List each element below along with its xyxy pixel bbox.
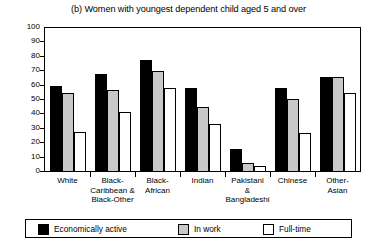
bar-group (185, 28, 221, 172)
bar (197, 107, 209, 172)
bar (209, 124, 221, 172)
bar (107, 90, 119, 172)
bar-group (275, 28, 311, 172)
x-category-label-line: & (216, 186, 279, 196)
bar (164, 88, 176, 172)
bar-group (50, 28, 86, 172)
chart-legend: Economically activeIn workFull-time (25, 219, 352, 238)
x-category-label-line: Bangladeshi (216, 195, 279, 205)
bar (287, 99, 299, 172)
bar (299, 133, 311, 172)
bar (242, 163, 254, 172)
chart-title: (b) Women with youngest dependent child … (0, 4, 377, 14)
y-tick-label: 100 (27, 23, 40, 31)
bar (62, 93, 74, 172)
bar (50, 86, 62, 172)
bar (140, 60, 152, 172)
y-tick-label: 50 (31, 95, 40, 103)
bar (74, 132, 86, 172)
x-category-label: Other-Asian (306, 176, 369, 195)
bar (95, 74, 107, 172)
bar (320, 77, 332, 172)
legend-swatch-icon (263, 224, 274, 235)
bar (152, 71, 164, 172)
bar-group (320, 28, 356, 172)
bar (185, 88, 197, 172)
x-category-label-line: Black-Other (81, 195, 144, 205)
y-tick-label: 40 (31, 109, 40, 117)
legend-swatch-icon (38, 224, 49, 235)
y-tick-label: 70 (31, 66, 40, 74)
x-category-label-line: Asian (306, 186, 369, 196)
bar (332, 77, 344, 172)
bar (230, 149, 242, 172)
y-tick-label: 30 (31, 124, 40, 132)
legend-label: Full-time (279, 225, 311, 234)
y-tick-label: 20 (31, 138, 40, 146)
bars-layer (45, 28, 360, 172)
y-tick-label: 10 (31, 153, 40, 161)
y-tick-label: 90 (31, 37, 40, 45)
legend-entry: Full-time (263, 223, 311, 235)
legend-swatch-icon (178, 224, 189, 235)
bar-group (95, 28, 131, 172)
bar-group (140, 28, 176, 172)
bar (344, 93, 356, 172)
legend-label: Economically active (54, 225, 127, 234)
y-axis-tick-labels: 1009080706050403020100 (16, 27, 40, 172)
legend-entry: In work (178, 223, 221, 235)
x-axis-tick-labels: WhiteBlack-Caribbean &Black-OtherBlack-A… (30, 176, 377, 212)
bar-group (230, 28, 266, 172)
x-category-label-line: Other- (306, 176, 369, 186)
legend-entry: Economically active (38, 223, 127, 235)
y-tick-label: 80 (31, 52, 40, 60)
bar-chart-figure: (b) Women with youngest dependent child … (0, 0, 377, 247)
x-category-label-line: African (126, 186, 189, 196)
bar (119, 112, 131, 172)
legend-label: In work (194, 225, 221, 234)
y-tick-label: 60 (31, 81, 40, 89)
bar (275, 88, 287, 172)
